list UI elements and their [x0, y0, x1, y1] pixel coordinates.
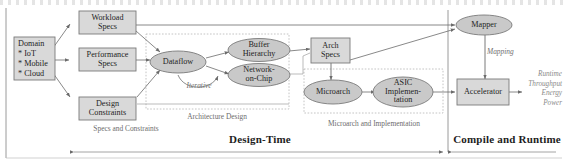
node-mapper-ellipse	[456, 15, 512, 35]
node-domain-box	[14, 37, 55, 80]
node-dataflow-ellipse	[150, 51, 206, 73]
node-buffer-hierarchy-ellipse	[228, 39, 290, 62]
edge-dataflow-to-noc	[206, 66, 229, 74]
node-arch-specs-box	[311, 38, 350, 63]
diagram-svg	[0, 0, 568, 164]
edge-arch-specs-to-mapper	[350, 29, 455, 60]
edge-domain-to-constraints	[53, 73, 70, 97]
figure-canvas: Domain * IoT * Mobile * Cloud Workload S…	[0, 0, 568, 164]
edge-dataflow-to-buffer	[206, 52, 229, 58]
edge-iterative-loop	[178, 75, 218, 87]
node-network-on-chip-ellipse	[228, 64, 290, 87]
edge-noc-to-arch-specs	[289, 53, 310, 74]
node-accelerator-box	[457, 79, 509, 105]
edge-domain-to-workload	[53, 24, 70, 48]
node-performance-specs-box	[79, 48, 136, 71]
node-workload-specs-box	[79, 11, 136, 34]
node-design-constraints-box	[79, 97, 136, 120]
edge-constraints-to-dataflow	[137, 70, 160, 97]
node-microarch-ellipse	[304, 80, 362, 104]
edge-buffer-to-arch-specs	[289, 49, 310, 51]
node-asic-implementation-ellipse	[373, 77, 433, 107]
